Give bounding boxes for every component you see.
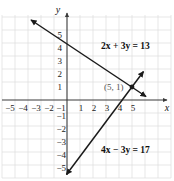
y-tick: −5 (56, 163, 66, 173)
y-tick: 4 (58, 43, 63, 53)
y-tick: 1 (58, 82, 63, 92)
x-tick: −3 (31, 103, 41, 113)
y-tick: −1 (56, 111, 66, 121)
y-tick-labels: 5 4 3 2 1 −1 −2 −3 −4 −5 (56, 30, 66, 173)
y-axis-label: y (55, 4, 61, 15)
x-axis-label: x (164, 102, 170, 113)
intersection-point-label: (5, 1) (104, 82, 124, 92)
equation-label-1: 2x + 3y = 13 (101, 41, 150, 51)
x-tick: 1 (79, 103, 84, 113)
line-2x-plus-3y-equals-13 (31, 20, 146, 97)
graph-canvas: y x −5 −4 −3 −2 −1 1 2 3 4 5 5 4 3 2 1 −… (0, 0, 174, 181)
linear-system-graph: y x −5 −4 −3 −2 −1 1 2 3 4 5 5 4 3 2 1 −… (0, 0, 174, 181)
y-tick: −3 (56, 137, 66, 147)
x-tick: 3 (105, 103, 110, 113)
y-tick: 2 (58, 69, 63, 79)
x-tick: −4 (18, 103, 28, 113)
intersection-point (130, 85, 135, 90)
x-tick: −2 (44, 103, 54, 113)
x-tick: 2 (92, 103, 97, 113)
equation-label-2: 4x − 3y = 17 (101, 145, 150, 155)
y-tick: 3 (58, 56, 63, 66)
y-tick: −2 (56, 124, 66, 134)
x-tick: 5 (131, 103, 136, 113)
y-tick: −4 (56, 150, 66, 160)
x-tick: −5 (5, 103, 15, 113)
